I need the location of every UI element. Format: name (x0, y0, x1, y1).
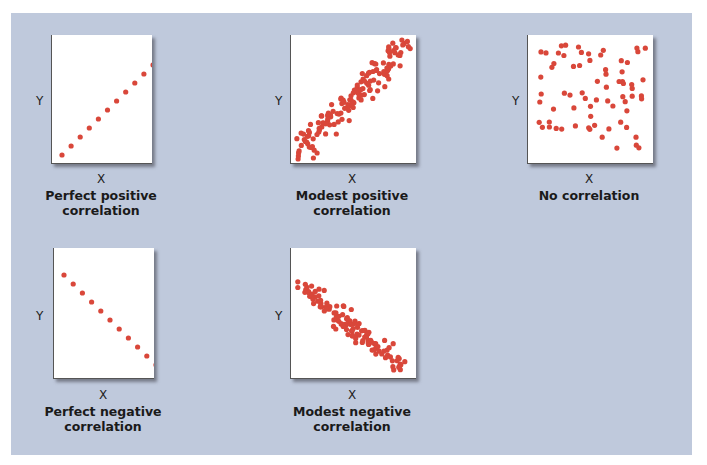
data-point (331, 324, 336, 329)
data-point (315, 299, 320, 304)
data-point (386, 44, 391, 49)
data-point (625, 60, 630, 65)
data-point (107, 317, 112, 322)
data-point (373, 341, 378, 346)
data-point (299, 143, 304, 148)
data-point (336, 119, 341, 124)
plot-area (290, 248, 416, 379)
chart-caption: Perfect positive correlation (11, 188, 191, 218)
data-point (375, 88, 380, 93)
caption-line: correlation (262, 419, 442, 434)
x-axis-label: X (539, 172, 639, 186)
data-point (567, 93, 572, 98)
data-point (311, 155, 316, 160)
chart-caption: Modest positive correlation (262, 188, 442, 218)
data-point (123, 89, 128, 94)
data-point (296, 153, 301, 158)
data-point (316, 120, 321, 125)
data-point (586, 51, 591, 56)
data-point (640, 77, 645, 82)
data-point (388, 63, 393, 68)
data-point (400, 42, 405, 47)
data-point (358, 87, 363, 92)
data-point (624, 108, 629, 113)
data-point (71, 281, 76, 286)
data-point (322, 288, 327, 293)
data-point (629, 82, 634, 87)
data-point (588, 104, 593, 109)
data-point (643, 46, 648, 51)
data-point (539, 91, 544, 96)
data-point (576, 44, 581, 49)
data-point (341, 304, 346, 309)
data-point (379, 351, 384, 356)
chart-caption: Perfect negative correlation (13, 404, 193, 434)
data-point (316, 287, 321, 292)
data-point (371, 347, 376, 352)
data-point (394, 45, 399, 50)
data-point (538, 49, 543, 54)
data-point (303, 282, 308, 287)
data-point (302, 290, 307, 295)
data-point (144, 353, 149, 358)
data-point (367, 88, 372, 93)
data-point (344, 316, 349, 321)
data-point (630, 94, 635, 99)
data-point (80, 290, 85, 295)
caption-line: correlation (262, 203, 442, 218)
data-point (329, 102, 334, 107)
data-point (360, 338, 365, 343)
data-point (634, 46, 639, 51)
data-point (595, 79, 600, 84)
data-point (336, 314, 341, 319)
data-point (619, 58, 624, 63)
data-point (554, 126, 559, 131)
x-axis-label: X (53, 388, 153, 402)
data-point (639, 96, 644, 101)
data-point (610, 103, 615, 108)
data-point (605, 98, 610, 103)
data-point (135, 344, 140, 349)
data-point (376, 80, 381, 85)
data-point (360, 71, 365, 76)
data-point (141, 71, 146, 76)
data-point (347, 118, 352, 123)
data-point (601, 48, 606, 53)
x-axis-label: X (51, 172, 151, 186)
data-point (311, 136, 316, 141)
caption-line: Perfect negative (13, 404, 193, 419)
data-point (301, 132, 306, 137)
x-axis-label: X (302, 172, 402, 186)
data-point (117, 326, 122, 331)
data-point (588, 114, 593, 119)
data-point (580, 90, 585, 95)
data-point (405, 39, 410, 44)
y-axis-label: Y (512, 94, 519, 108)
data-point (344, 327, 349, 332)
data-point (551, 107, 556, 112)
data-point (603, 67, 608, 72)
data-point (310, 297, 315, 302)
data-point (538, 75, 543, 80)
data-point (559, 127, 564, 132)
data-point (562, 91, 567, 96)
data-point (620, 69, 625, 74)
data-point (349, 307, 354, 312)
data-point (350, 334, 355, 339)
data-point (89, 299, 94, 304)
data-point (396, 355, 401, 360)
data-point (382, 84, 387, 89)
caption-line: Modest positive (262, 188, 442, 203)
data-point (391, 341, 396, 346)
data-point (87, 125, 92, 130)
x-axis-label: X (302, 388, 402, 402)
data-point (543, 50, 548, 55)
data-point (294, 136, 299, 141)
data-point (398, 63, 403, 68)
data-point (600, 135, 605, 140)
data-point (334, 131, 339, 136)
data-point (623, 99, 628, 104)
data-point (324, 306, 329, 311)
data-point (96, 116, 101, 121)
y-axis-label: Y (275, 94, 282, 108)
